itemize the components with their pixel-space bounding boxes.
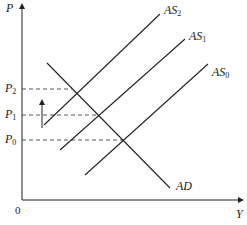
as0-label: AS0: [212, 66, 229, 80]
diagram-canvas: [0, 0, 247, 225]
price-label-p0: P0: [5, 133, 16, 147]
ad-label: AD: [176, 180, 192, 192]
ad-as-diagram: P Y 0 P2 P1 P0 AS2 AS1 AS0 AD: [0, 0, 247, 225]
as2-curve: [44, 14, 160, 125]
price-label-p1: P1: [5, 108, 16, 122]
origin-label: 0: [15, 205, 21, 216]
price-label-p2: P2: [5, 82, 16, 96]
y-axis-label: P: [6, 2, 13, 14]
as1-label: AS1: [189, 30, 206, 44]
as0-curve: [85, 64, 208, 175]
ad-curve: [47, 63, 170, 188]
as2-label: AS2: [164, 4, 181, 18]
x-axis-label: Y: [236, 208, 243, 220]
